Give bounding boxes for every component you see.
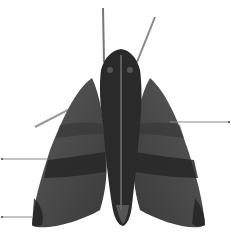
moth-diagram	[0, 0, 231, 236]
moth-illustration	[0, 0, 231, 236]
right-wing	[133, 78, 205, 227]
moth-body	[100, 49, 142, 226]
right-wing-pointer-dot	[228, 121, 230, 123]
left-wing-band-pointer-dot	[1, 158, 3, 160]
left-wing-tip-pointer-dot	[1, 216, 3, 218]
left-wing	[32, 78, 107, 227]
